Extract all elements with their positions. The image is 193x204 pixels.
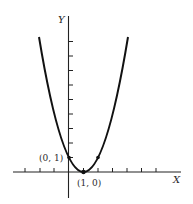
- point-2-1-marker: [96, 156, 100, 160]
- y-axis-label: Y: [58, 14, 66, 25]
- x-axis-label: X: [172, 174, 181, 185]
- parabola-curve: [39, 37, 128, 172]
- point-1-0-label: (1, 0): [77, 178, 101, 188]
- point-0-1-label: (0, 1): [39, 153, 63, 163]
- point-0-1-marker: [67, 156, 71, 160]
- point-1-0-marker: [81, 170, 85, 174]
- parabola-graph: Y X (0, 1) (1, 0): [0, 0, 193, 204]
- y-ticks: [69, 42, 74, 158]
